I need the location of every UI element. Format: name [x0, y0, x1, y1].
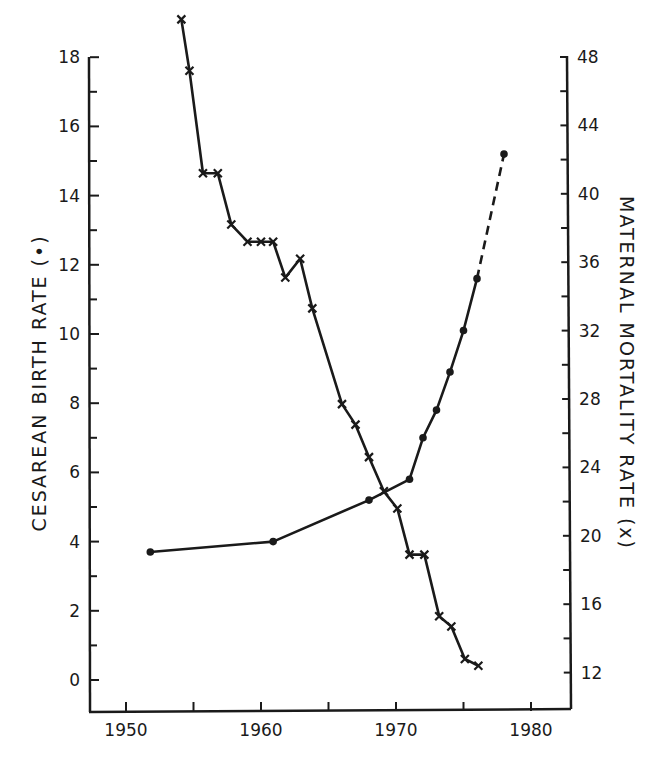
right-tick-label: 24: [580, 457, 602, 477]
left-tick-label: 0: [69, 670, 80, 690]
right-tick-label: 12: [581, 663, 603, 683]
left-tick-label: 10: [58, 324, 80, 344]
x-tick-label: 1960: [239, 720, 282, 740]
x-tick-label: 1950: [104, 720, 147, 740]
left-tick-label: 12: [58, 255, 80, 275]
x-tick-label: 1980: [509, 720, 552, 740]
dot-marker: [406, 476, 414, 484]
dot-marker: [460, 327, 468, 335]
dot-marker: [269, 538, 277, 546]
left-tick-label: 2: [69, 601, 80, 621]
series-layer: [147, 15, 508, 669]
right-tick-label: 44: [577, 115, 599, 135]
dot-marker: [147, 548, 155, 556]
series-line: [181, 19, 478, 665]
dot-marker: [500, 150, 508, 158]
dot-marker: [473, 275, 481, 283]
right-tick-label: 48: [577, 47, 599, 67]
left-tick-label: 18: [58, 47, 80, 67]
dual-axis-line-chart: 024681012141618 12162024283236404448 195…: [0, 0, 661, 761]
left-axis-ticks: 024681012141618: [58, 47, 99, 690]
left-axis-title: CESAREAN BIRTH RATE (•): [28, 234, 50, 531]
right-tick-label: 36: [578, 252, 600, 272]
series-line: [150, 279, 477, 552]
mortality-series: [177, 15, 482, 669]
left-tick-label: 16: [58, 116, 80, 136]
right-axis-title: MATERNAL MORTALITY RATE (x): [616, 196, 638, 550]
x-tick-label: 1970: [374, 720, 417, 740]
axes-frame: [89, 56, 571, 712]
right-tick-label: 28: [579, 389, 601, 409]
dot-marker: [433, 406, 441, 414]
left-tick-label: 14: [58, 186, 80, 206]
dot-marker: [419, 434, 427, 442]
projected-segment: [477, 154, 504, 279]
x-axis: [89, 709, 571, 712]
right-tick-label: 32: [579, 321, 601, 341]
right-y-axis: [567, 56, 571, 709]
dot-marker: [365, 496, 373, 504]
left-y-axis: [89, 57, 90, 712]
right-tick-label: 40: [578, 184, 600, 204]
x-axis-ticks: 1950196019701980: [104, 702, 552, 740]
right-tick-label: 16: [580, 594, 602, 614]
dot-marker: [446, 368, 454, 376]
left-tick-label: 6: [69, 462, 80, 482]
left-tick-label: 4: [69, 532, 80, 552]
right-tick-label: 20: [580, 526, 602, 546]
left-tick-label: 8: [69, 393, 80, 413]
